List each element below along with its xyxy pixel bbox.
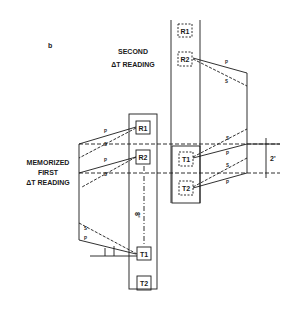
ray-label-p: P xyxy=(84,236,87,241)
upper-t2-s-ray xyxy=(193,158,247,187)
upper-t2-p-ray xyxy=(193,173,247,188)
lower-t2-label: T2 xyxy=(140,280,148,287)
ray-label-p: P xyxy=(226,151,229,156)
upper-tool-transmitter-section xyxy=(172,146,200,203)
second-reading-label-line2: ΔT READING xyxy=(111,61,155,68)
ray-label-s: S xyxy=(104,172,107,177)
lower-r2-label: R2 xyxy=(139,154,148,161)
upper-r2-label: R2 xyxy=(181,56,190,63)
upper-t1-p-ray xyxy=(193,144,247,158)
sonic-tool-diagram: b SECOND ΔT READING MEMORIZED FIRST ΔT R… xyxy=(0,0,293,317)
ray-label-s: S xyxy=(226,163,229,168)
ray-label-s: S xyxy=(225,79,228,84)
lower-formation-wall xyxy=(79,127,136,254)
lower-r1-s-ray xyxy=(79,128,136,158)
first-reading-label-line3: ΔT READING xyxy=(26,179,70,186)
first-reading-label-line1: MEMORIZED xyxy=(27,159,70,166)
lower-t1-s-ray xyxy=(79,223,137,254)
upper-r2-s-ray xyxy=(193,59,247,86)
upper-t2-label: T2 xyxy=(182,185,190,192)
upper-t1-label: T1 xyxy=(182,156,190,163)
upper-r1-label: R1 xyxy=(181,28,190,35)
ray-label-p: P xyxy=(225,60,228,65)
lower-tool-body xyxy=(129,114,157,289)
spacing-8ft-label: 8' xyxy=(134,212,141,218)
ray-label-s: S xyxy=(84,226,87,231)
second-reading-label-line1: SECOND xyxy=(118,48,148,55)
spacing-2ft-label: 2' xyxy=(270,155,276,162)
upper-t1-s-ray xyxy=(193,129,247,157)
first-reading-label-line2: FIRST xyxy=(38,169,59,176)
ray-label-s: S xyxy=(104,142,107,147)
ray-label-p: P xyxy=(104,129,107,134)
ray-label-s: S xyxy=(226,136,229,141)
lower-r1-label: R1 xyxy=(139,125,148,132)
panel-label: b xyxy=(48,42,52,49)
lower-t1-label: T1 xyxy=(140,251,148,258)
lower-r2-s-ray xyxy=(82,157,136,187)
lower-r2-p-ray xyxy=(79,157,136,173)
ray-label-p: P xyxy=(104,158,107,163)
ray-label-p: P xyxy=(226,180,229,185)
